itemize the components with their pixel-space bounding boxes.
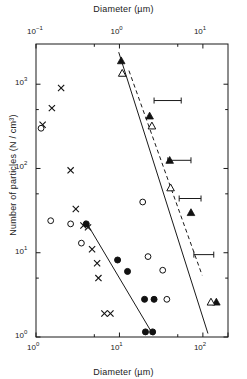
data-point-x bbox=[73, 206, 79, 212]
error-bar bbox=[179, 196, 201, 202]
data-point-open-triangle bbox=[207, 298, 215, 305]
particle-size-distribution-chart: Diameter (µm) Diameter (µm) Number of pa… bbox=[0, 0, 247, 379]
data-point-filled-circle bbox=[142, 329, 148, 335]
data-point-filled-circle bbox=[142, 296, 148, 302]
data-point-filled-circle bbox=[125, 268, 131, 274]
data-point-x bbox=[89, 246, 95, 252]
solid-line-left bbox=[85, 221, 153, 336]
data-point-open-circle bbox=[140, 199, 146, 205]
data-point-filled-triangle bbox=[117, 57, 125, 64]
data-point-open-circle bbox=[145, 254, 151, 260]
data-point-filled-circle bbox=[115, 257, 121, 263]
data-point-x bbox=[58, 85, 64, 91]
error-bar bbox=[154, 98, 181, 104]
data-point-filled-triangle bbox=[187, 209, 195, 216]
data-point-open-circle bbox=[68, 221, 74, 227]
data-point-x bbox=[107, 310, 113, 316]
plot-frame bbox=[36, 44, 228, 337]
solid-line-right bbox=[119, 52, 208, 333]
dashed-line-right bbox=[129, 71, 202, 276]
data-point-x bbox=[95, 275, 101, 281]
data-point-open-circle bbox=[38, 125, 44, 131]
data-point-x bbox=[101, 310, 107, 316]
axis-ticks bbox=[36, 44, 228, 337]
data-point-open-circle bbox=[164, 296, 170, 302]
error-bar bbox=[194, 252, 214, 258]
data-point-filled-circle bbox=[83, 221, 89, 227]
data-point-x bbox=[68, 167, 74, 173]
data-point-filled-triangle bbox=[146, 112, 154, 119]
error-bars bbox=[154, 98, 214, 258]
data-point-filled-circle bbox=[150, 329, 156, 335]
data-point-x bbox=[49, 105, 55, 111]
data-point-open-circle bbox=[78, 240, 84, 246]
plot-area bbox=[0, 0, 247, 379]
data-point-open-circle bbox=[48, 218, 54, 224]
data-point-filled-circle bbox=[151, 296, 157, 302]
data-markers bbox=[38, 57, 220, 335]
data-point-x bbox=[94, 260, 100, 266]
fit-lines bbox=[85, 52, 208, 335]
data-point-open-triangle bbox=[148, 122, 156, 129]
data-point-open-circle bbox=[160, 267, 166, 273]
data-point-open-triangle bbox=[167, 184, 175, 191]
